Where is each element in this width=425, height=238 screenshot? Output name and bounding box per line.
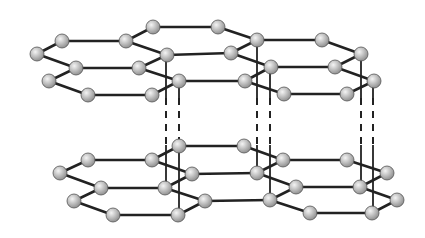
carbon-atom — [171, 208, 185, 222]
carbon-atom — [198, 194, 212, 208]
carbon-atom — [55, 34, 69, 48]
carbon-atom — [146, 20, 160, 34]
carbon-atom — [367, 74, 381, 88]
carbon-atom — [145, 153, 159, 167]
carbon-atom — [276, 153, 290, 167]
carbon-atom — [185, 167, 199, 181]
carbon-bond — [167, 53, 231, 55]
carbon-atom — [250, 166, 264, 180]
carbon-atom — [264, 60, 278, 74]
bottom-layer-atoms — [53, 139, 404, 222]
carbon-atom — [365, 206, 379, 220]
carbon-atom — [380, 166, 394, 180]
carbon-atom — [289, 180, 303, 194]
carbon-atom — [354, 47, 368, 61]
carbon-atom — [81, 88, 95, 102]
graphite-lattice-diagram — [0, 0, 425, 238]
top-layer-atoms — [30, 20, 381, 102]
carbon-atom — [42, 74, 56, 88]
carbon-atom — [69, 61, 83, 75]
carbon-atom — [172, 74, 186, 88]
carbon-atom — [353, 180, 367, 194]
carbon-atom — [315, 33, 329, 47]
lattice-canvas — [0, 0, 425, 238]
carbon-atom — [94, 181, 108, 195]
carbon-atom — [328, 60, 342, 74]
carbon-atom — [237, 139, 251, 153]
carbon-atom — [158, 181, 172, 195]
carbon-atom — [250, 33, 264, 47]
carbon-atom — [263, 193, 277, 207]
carbon-atom — [160, 48, 174, 62]
carbon-atom — [390, 193, 404, 207]
carbon-atom — [145, 88, 159, 102]
carbon-atom — [106, 208, 120, 222]
carbon-atom — [211, 20, 225, 34]
carbon-atom — [119, 34, 133, 48]
carbon-atom — [132, 61, 146, 75]
carbon-atom — [224, 46, 238, 60]
carbon-bond — [192, 173, 257, 174]
carbon-atom — [81, 153, 95, 167]
carbon-atom — [277, 87, 291, 101]
carbon-atom — [30, 47, 44, 61]
carbon-atom — [238, 74, 252, 88]
carbon-atom — [67, 194, 81, 208]
carbon-atom — [340, 87, 354, 101]
carbon-atom — [53, 166, 67, 180]
carbon-bond — [205, 200, 270, 201]
carbon-atom — [172, 139, 186, 153]
carbon-atom — [303, 206, 317, 220]
carbon-atom — [340, 153, 354, 167]
